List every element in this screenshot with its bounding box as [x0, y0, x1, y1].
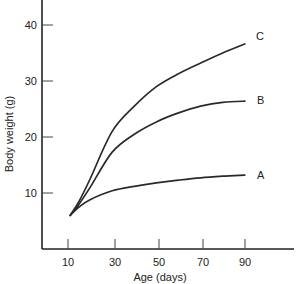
- curve-a: [70, 175, 245, 215]
- curve-b: [70, 101, 245, 215]
- x-tick-label: 70: [197, 256, 209, 268]
- x-ticks: 10 30 50 70 90: [62, 239, 251, 268]
- series-label-a: A: [257, 169, 265, 181]
- growth-chart: 10 20 30 40 10 30 50 70 90 Age (days) Bo…: [0, 0, 297, 284]
- x-tick-label: 50: [153, 256, 165, 268]
- y-axis-title: Body weight (g): [3, 96, 15, 172]
- y-tick-label: 20: [25, 131, 37, 143]
- curves: [70, 44, 245, 215]
- y-tick-label: 10: [25, 187, 37, 199]
- series-label-b: B: [257, 94, 264, 106]
- x-tick-label: 90: [239, 256, 251, 268]
- y-tick-label: 40: [25, 19, 37, 31]
- x-axis-title: Age (days): [133, 271, 186, 283]
- y-tick-label: 30: [25, 75, 37, 87]
- x-tick-label: 30: [109, 256, 121, 268]
- y-ticks: 10 20 30 40: [25, 19, 53, 199]
- series-label-c: C: [256, 30, 264, 42]
- curve-c: [70, 44, 245, 215]
- x-tick-label: 10: [62, 256, 74, 268]
